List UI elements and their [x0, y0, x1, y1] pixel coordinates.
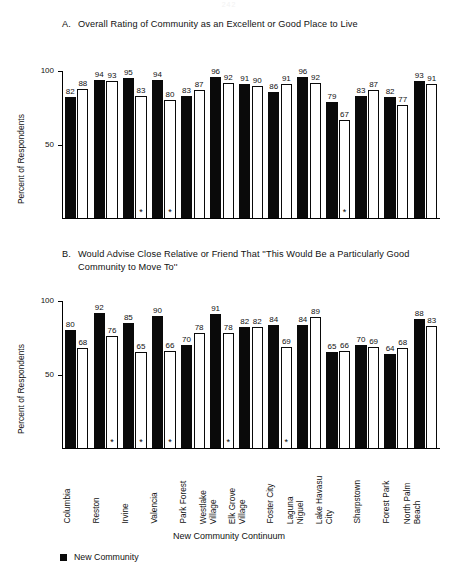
bar-value-label: 68 — [398, 338, 408, 348]
bar-value-label: 95 — [123, 68, 133, 78]
bar-value-label: 69 — [281, 337, 291, 347]
category-label-line1: Elk Grove — [227, 488, 237, 524]
bar-value-label: 68 — [78, 338, 88, 348]
bar: 67* — [339, 120, 350, 218]
category-label-line2: Village — [238, 488, 248, 524]
y-axis-tick — [58, 71, 63, 72]
bar: 80 — [65, 330, 76, 448]
bar: 93 — [414, 81, 425, 218]
bar: 95 — [123, 78, 134, 218]
bar: 77 — [397, 105, 408, 218]
legend: New Community — [60, 551, 139, 563]
bar: 92 — [310, 83, 321, 218]
bar: 90 — [152, 316, 163, 448]
bar: 68 — [77, 348, 88, 448]
bar: 70 — [355, 345, 366, 448]
bar-value-label: 82 — [65, 87, 75, 97]
bar: 84 — [297, 325, 308, 448]
bar-value-label: 85 — [123, 313, 133, 323]
bar: 92 — [94, 313, 105, 448]
category-label: Columbia — [63, 489, 73, 524]
bar: 78* — [223, 333, 234, 448]
bar-value-label: 77 — [398, 95, 408, 105]
x-axis-baseline — [62, 218, 440, 219]
bar-value-label: 69 — [369, 337, 379, 347]
bar: 66* — [164, 351, 175, 448]
bar-value-label: 87 — [369, 80, 379, 90]
bar-value-label: 78 — [194, 323, 204, 333]
bar: 68 — [397, 348, 408, 448]
bar-value-label: 80 — [65, 320, 75, 330]
bar-value-label: 65 — [327, 342, 337, 352]
category-label-line2: Beach — [412, 483, 422, 525]
bar-value-label: 66 — [165, 341, 175, 351]
category-label: WestlakeVillage — [199, 490, 218, 524]
bar-value-label: 93 — [107, 71, 117, 81]
bar-value-label: 83 — [136, 86, 146, 96]
category-label-line1: North Palm — [401, 483, 411, 525]
significance-marker-icon: * — [139, 439, 143, 445]
y-axis-tick-label: 100 — [32, 66, 54, 75]
significance-marker-icon: * — [226, 439, 230, 445]
bar-value-label: 66 — [340, 341, 350, 351]
bar: 90 — [252, 86, 263, 218]
category-label-line1: Foster City — [266, 484, 276, 524]
bar-value-label: 91 — [427, 74, 437, 84]
page-number: 242 — [0, 1, 458, 8]
bar-value-label: 90 — [153, 306, 163, 316]
bar: 78 — [194, 333, 205, 448]
y-axis-tick — [58, 145, 63, 146]
bar-value-label: 65 — [136, 342, 146, 352]
bar-value-label: 90 — [252, 76, 262, 86]
bar: 82 — [239, 327, 250, 448]
category-label-line1: Columbia — [62, 489, 72, 524]
bar-value-label: 86 — [269, 82, 279, 92]
bar-value-label: 82 — [252, 317, 262, 327]
category-label: Foster City — [267, 484, 277, 524]
bar: 96 — [297, 77, 308, 218]
category-label: Elk GroveVillage — [228, 488, 247, 524]
bar-value-label: 80 — [165, 90, 175, 100]
bar: 76* — [106, 336, 117, 448]
category-label-line1: Laguna — [285, 496, 295, 524]
continuum-axis-label: New Community Continuum — [0, 531, 458, 541]
bar-value-label: 70 — [356, 335, 366, 345]
bar: 70 — [181, 345, 192, 448]
y-axis-title: Percent of Respondents — [16, 114, 26, 204]
bar: 88 — [77, 89, 88, 218]
bar: 89 — [310, 317, 321, 448]
bar: 65* — [135, 352, 146, 448]
bar: 80* — [164, 100, 175, 218]
bar: 91 — [281, 84, 292, 218]
bar: 83 — [181, 96, 192, 218]
significance-marker-icon: * — [168, 439, 172, 445]
bar-value-label: 83 — [182, 86, 192, 96]
category-label: Forest Park — [383, 481, 393, 524]
category-label: Park Forest — [179, 481, 189, 524]
bar: 87 — [368, 90, 379, 218]
bar-value-label: 82 — [240, 317, 250, 327]
bar-value-label: 79 — [327, 92, 337, 102]
bar: 82 — [65, 97, 76, 218]
y-axis-title: Percent of Respondents — [16, 344, 26, 434]
continuum-axis-label-text: New Community Continuum — [169, 531, 289, 541]
chart-a: A. Overall Rating of Community as an Exc… — [0, 18, 458, 233]
bar-value-label: 76 — [107, 326, 117, 336]
bar: 82 — [252, 327, 263, 448]
bar-value-label: 91 — [240, 74, 250, 84]
bar-value-label: 92 — [310, 73, 320, 83]
chart-a-plot: 10050Percent of Respondents828894939583*… — [0, 18, 458, 233]
bar-value-label: 84 — [298, 315, 308, 325]
bar: 91 — [426, 84, 437, 218]
bar-value-label: 94 — [153, 70, 163, 80]
bar-value-label: 91 — [281, 74, 291, 84]
significance-marker-icon: * — [285, 439, 289, 445]
x-axis-baseline — [62, 448, 440, 449]
bar: 96 — [210, 77, 221, 218]
bar: 83* — [135, 96, 146, 218]
bar-value-label: 84 — [269, 315, 279, 325]
bar-value-label: 82 — [385, 87, 395, 97]
category-label-line1: Irvine — [120, 504, 130, 524]
bar-value-label: 94 — [94, 70, 104, 80]
bar-value-label: 64 — [385, 344, 395, 354]
